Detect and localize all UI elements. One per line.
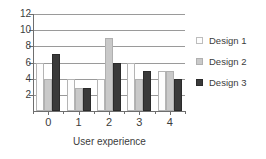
bar-4-series-3 (174, 79, 182, 111)
legend-label-3: Design 3 (209, 77, 247, 88)
x-tick-label-1: 1 (69, 116, 89, 128)
bar-3-series-1 (127, 63, 135, 112)
y-tick-label-4: 4 (5, 74, 31, 84)
legend-swatch-icon-2 (196, 58, 203, 65)
x-minor-tick-3 (124, 111, 125, 114)
chart-legend: Design 1Design 2Design 3 (196, 30, 264, 93)
x-axis-title: User experience (33, 136, 186, 147)
bar-2-series-3 (113, 63, 121, 112)
bar-1-series-3 (83, 88, 91, 111)
bar-2-series-2 (105, 38, 113, 111)
bar-0-series-1 (36, 63, 44, 112)
x-tick-label-0: 0 (38, 116, 58, 128)
legend-label-2: Design 2 (209, 56, 247, 67)
legend-item-2[interactable]: Design 2 (196, 51, 264, 72)
y-tick-label-6: 6 (5, 58, 31, 68)
bar-group-2 (97, 14, 121, 111)
x-minor-tick-2 (94, 111, 95, 114)
y-axis-line (33, 14, 34, 112)
x-minor-tick-end (185, 111, 186, 114)
bar-4-series-2 (166, 71, 174, 111)
bar-3-series-2 (135, 79, 143, 111)
legend-swatch-icon-1 (196, 37, 203, 44)
bar-group-4 (158, 14, 182, 111)
bar-group-0 (36, 14, 60, 111)
bar-group-1 (67, 14, 91, 111)
x-tick-label-2: 2 (99, 116, 119, 128)
y-tick-label-8: 8 (5, 41, 31, 51)
x-tick-label-3: 3 (129, 116, 149, 128)
legend-label-1: Design 1 (209, 35, 247, 46)
y-axis-ticks: 24681012 (0, 0, 31, 159)
x-tick-label-4: 4 (160, 116, 180, 128)
x-tick-mark-0 (48, 111, 49, 115)
bar-0-series-3 (52, 54, 60, 111)
y-tick-label-10: 10 (5, 25, 31, 35)
bar-3-series-3 (143, 71, 151, 111)
legend-swatch-icon-3 (196, 79, 203, 86)
legend-item-1[interactable]: Design 1 (196, 30, 264, 51)
bar-2-series-1 (97, 79, 105, 111)
bar-1-series-2 (75, 88, 83, 111)
x-tick-mark-1 (79, 111, 80, 115)
x-tick-mark-4 (170, 111, 171, 115)
x-minor-tick-1 (63, 111, 64, 114)
legend-item-3[interactable]: Design 3 (196, 72, 264, 93)
bar-4-series-1 (158, 71, 166, 111)
y-tick-label-2: 2 (5, 90, 31, 100)
bar-group-3 (127, 14, 151, 111)
x-tick-mark-2 (109, 111, 110, 115)
plot-area (33, 14, 185, 111)
bar-chart-screenshot: 24681012 User experience Design 1Design … (0, 0, 266, 159)
x-minor-tick-4 (155, 111, 156, 114)
x-tick-mark-3 (139, 111, 140, 115)
y-tick-label-12: 12 (5, 9, 31, 19)
bar-0-series-2 (44, 79, 52, 111)
bar-1-series-1 (67, 79, 75, 111)
x-minor-tick-0 (33, 111, 34, 114)
